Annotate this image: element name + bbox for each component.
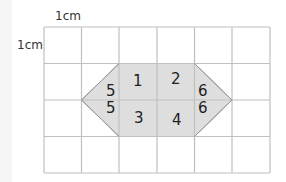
grid-lines xyxy=(44,27,270,173)
piece-4-label: 4 xyxy=(172,113,182,128)
piece-5-upper-label: 5 xyxy=(106,84,116,99)
piece-6-lower-label: 6 xyxy=(198,101,208,116)
vertical-unit-label: 1cm xyxy=(17,38,43,52)
piece-3-label: 3 xyxy=(134,111,144,126)
grid-diagram xyxy=(0,0,286,182)
piece-1-label: 1 xyxy=(133,74,143,89)
piece-6-upper-label: 6 xyxy=(198,84,208,99)
piece-2-label: 2 xyxy=(171,72,181,87)
piece-5-lower-label: 5 xyxy=(106,101,116,116)
horizontal-unit-label: 1cm xyxy=(55,9,81,23)
